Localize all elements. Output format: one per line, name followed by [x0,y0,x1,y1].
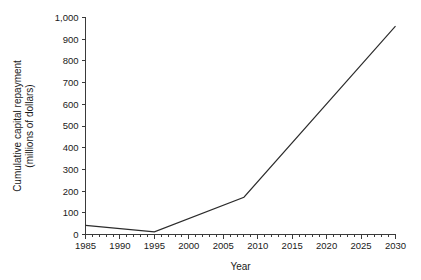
data-series-line [86,26,396,232]
y-axis-title-line1: Cumulative capital repayment [12,60,23,192]
y-axis-tick-label: 600 [63,99,79,110]
y-axis-tick-label: 100 [63,207,79,218]
x-axis-tick-label: 2000 [178,240,199,251]
y-axis-tick-label: 1,000 [55,12,79,23]
y-axis-tick-label: 900 [63,34,79,45]
data-series-group [86,26,396,232]
x-axis: 1985199019952000200520102015202020252030 [75,235,406,252]
x-axis-tick-label: 2005 [213,240,234,251]
x-axis-tick-label: 1995 [144,240,165,251]
y-axis-tick-label: 300 [63,164,79,175]
y-axis-title-line2: (millions of dollars) [24,84,35,167]
x-axis-tick-label: 2025 [350,240,371,251]
x-axis-tick-label: 1990 [109,240,130,251]
y-axis-tick-label: 400 [63,142,79,153]
x-axis-tick-label: 1985 [75,240,96,251]
y-axis: 01002003004005006007008009001,000 [55,12,86,240]
x-axis-tick-label: 2020 [316,240,337,251]
chart-figure: 01002003004005006007008009001,000 198519… [0,0,421,280]
x-axis-tick-label: 2010 [247,240,268,251]
y-axis-tick-label: 500 [63,120,79,131]
x-axis-tick-label: 2030 [385,240,406,251]
y-axis-tick-label: 0 [73,229,78,240]
y-axis-tick-label: 200 [63,186,79,197]
x-axis-tick-label: 2015 [282,240,303,251]
y-axis-tick-label: 700 [63,77,79,88]
line-chart: 01002003004005006007008009001,000 198519… [0,0,421,280]
y-axis-tick-label: 800 [63,55,79,66]
x-axis-title: Year [230,261,251,272]
